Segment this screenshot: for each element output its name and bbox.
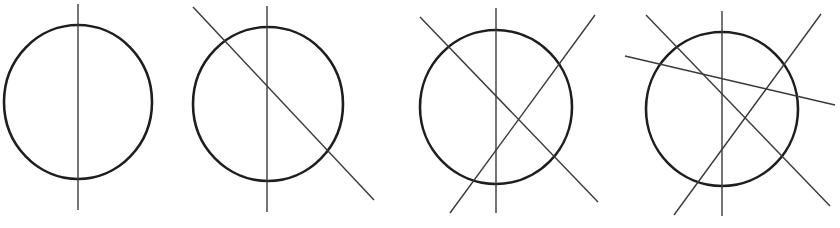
panel-2-lines bbox=[193, 6, 374, 212]
panel-3-lines bbox=[420, 8, 598, 213]
circle bbox=[193, 27, 343, 181]
cut-line-diagonal-down bbox=[193, 7, 374, 200]
cut-line-diagonal-up bbox=[450, 15, 595, 213]
panel-4-lines bbox=[625, 11, 835, 216]
panel-1-lines bbox=[4, 4, 152, 210]
cut-line-diagonal-down bbox=[646, 15, 830, 206]
cut-line-near-horizontal bbox=[625, 56, 835, 105]
circle-division-diagram bbox=[0, 0, 840, 228]
